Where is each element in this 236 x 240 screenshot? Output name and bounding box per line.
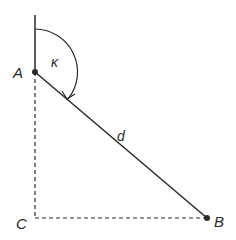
label-c: C: [16, 215, 27, 232]
label-d: d: [117, 128, 126, 144]
label-kappa: κ: [51, 54, 59, 70]
point-b-marker: [204, 215, 210, 221]
geometry-diagram: A κ d C B: [0, 0, 236, 240]
distance-line-d: [35, 72, 207, 218]
label-a: A: [12, 64, 23, 81]
label-b: B: [214, 213, 224, 230]
point-a-marker: [32, 69, 38, 75]
